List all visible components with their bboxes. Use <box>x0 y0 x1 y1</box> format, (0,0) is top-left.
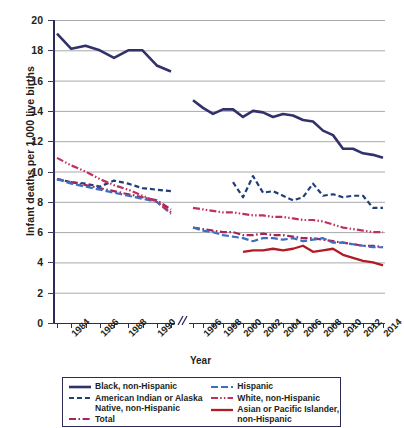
legend-column-2: Hispanic White, non-Hispanic Asian or Pa… <box>211 381 340 426</box>
legend-swatch-icon <box>211 393 233 403</box>
legend-line-icon <box>211 382 233 392</box>
legend-line-icon <box>69 382 91 392</box>
legend: Black, non-Hispanic American Indian or A… <box>62 377 341 427</box>
legend-label: Black, non-Hispanic <box>95 381 177 391</box>
legend-item: Black, non-Hispanic <box>69 381 211 392</box>
x-axis-title: Year <box>0 355 401 366</box>
legend-label: White, non-Hispanic <box>237 393 320 403</box>
legend-label: American Indian or Alaska Native, non-Hi… <box>95 393 203 413</box>
legend-line-icon <box>211 405 233 415</box>
legend-label: Hispanic <box>237 381 273 391</box>
legend-swatch-icon <box>69 393 91 403</box>
legend-label: Asian or Pacific Islander, non-Hispanic <box>237 404 339 424</box>
legend-swatch-icon <box>69 414 91 424</box>
legend-label: Total <box>95 414 115 424</box>
legend-item: White, non-Hispanic <box>211 393 340 404</box>
legend-item: Total <box>69 414 211 425</box>
legend-item: American Indian or Alaska Native, non-Hi… <box>69 393 211 413</box>
legend-swatch-icon <box>69 382 91 392</box>
legend-line-icon <box>211 393 233 403</box>
legend-column-1: Black, non-Hispanic American Indian or A… <box>69 381 211 426</box>
legend-item: Hispanic <box>211 381 340 392</box>
legend-line-icon <box>69 414 91 424</box>
legend-line-icon <box>69 393 91 403</box>
legend-swatch-icon <box>211 405 233 415</box>
legend-swatch-icon <box>211 382 233 392</box>
legend-item: Asian or Pacific Islander, non-Hispanic <box>211 404 340 424</box>
